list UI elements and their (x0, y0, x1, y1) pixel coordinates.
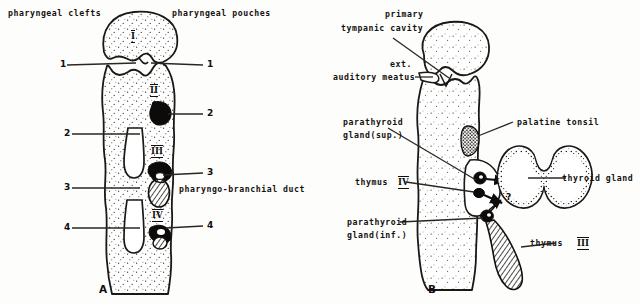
label-pharyngo-branchial-duct: pharyngo-branchial duct (179, 184, 305, 195)
panel-b-derivatives (388, 22, 592, 290)
label-thymus-iv-numeral: IV (398, 177, 409, 187)
cleft-label-3: 3 (64, 182, 70, 192)
figure-canvas: pharyngeal clefts pharyngeal pouches I I… (0, 0, 640, 305)
pouch-numeral-iv: IV (152, 210, 163, 220)
label-parathyroid-gland-inf-line2: gland(inf.) (347, 230, 407, 241)
label-parathyroid-gland-sup-line2: gland(sup.) (343, 130, 403, 141)
pouch-numeral-i: I (131, 31, 135, 41)
label-primary-tympanic-cavity-line1: primary (385, 9, 423, 20)
label-thyroid-gland: thyroid gland (562, 173, 633, 184)
pouch-numeral-iii: III (151, 146, 163, 156)
label-primary-tympanic-cavity-line2: tympanic cavity (341, 23, 423, 34)
label-pharyngeal-pouches: pharyngeal pouches (172, 8, 271, 19)
cleft-label-1: 1 (60, 59, 66, 69)
label-parathyroid-gland-inf-line1: parathyroid (347, 217, 407, 228)
anatomy-linework (0, 0, 640, 305)
label-ext-auditory-meatus-line2: auditory meatus (333, 72, 415, 83)
label-thymus-iv-text: thymus (355, 177, 388, 188)
label-ext-auditory-meatus-line1: ext. (390, 59, 412, 70)
pouch-label-2: 2 (207, 108, 213, 118)
label-question-mark: ? (506, 192, 511, 202)
cleft-label-2: 2 (64, 128, 70, 138)
label-pharyngeal-clefts: pharyngeal clefts (8, 8, 101, 19)
label-palatine-tonsil: palatine tonsil (517, 117, 599, 128)
pouch-label-1: 1 (207, 59, 213, 69)
pouch-numeral-ii: II (150, 85, 158, 95)
label-thymus-iii-text: thymus (530, 238, 563, 249)
label-parathyroid-gland-sup-line1: parathyroid (343, 117, 403, 128)
panel-letter-a: A (99, 283, 107, 295)
cleft-label-4: 4 (64, 222, 70, 232)
panel-letter-b: B (428, 283, 436, 295)
pouch-label-4: 4 (207, 220, 213, 230)
label-thymus-iii-numeral: III (577, 238, 589, 248)
pouch-label-3: 3 (207, 167, 213, 177)
panel-a-embryo (67, 12, 203, 294)
